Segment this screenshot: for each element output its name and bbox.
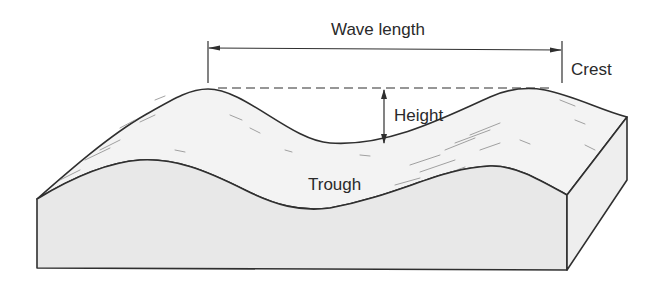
crest-label: Crest xyxy=(571,60,612,80)
height-label: Height xyxy=(394,106,443,126)
wave-length-label: Wave length xyxy=(331,20,425,40)
wavelength-arrow xyxy=(209,48,561,50)
trough-label: Trough xyxy=(308,175,361,195)
wave-diagram xyxy=(0,0,660,288)
